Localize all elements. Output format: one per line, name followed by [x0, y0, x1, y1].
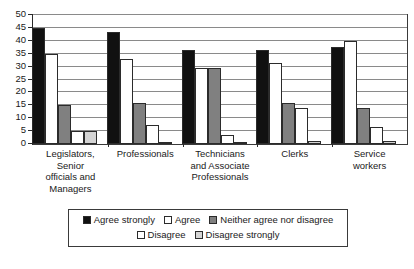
category-label-line: Managers	[33, 183, 108, 195]
category-label-line: Senior	[33, 160, 108, 172]
y-tick-label: 5	[21, 125, 26, 135]
y-tick-label: 15	[15, 100, 26, 110]
bar	[32, 28, 45, 144]
bar	[208, 68, 221, 144]
y-tick-label: 30	[15, 61, 26, 71]
bar-group	[256, 15, 321, 144]
y-tick-label: 35	[15, 48, 26, 58]
bar	[357, 108, 370, 144]
bar	[159, 142, 172, 144]
bar	[45, 54, 58, 144]
bar	[383, 141, 396, 144]
y-tick-label: 50	[15, 9, 26, 19]
category-label: Serviceworkers	[332, 148, 407, 171]
bar	[133, 103, 146, 144]
bar	[370, 127, 383, 144]
legend-item[interactable]: Agree	[164, 214, 200, 226]
legend-swatch-icon	[209, 216, 217, 224]
chart-legend: Agree stronglyAgreeNeither agree nor dis…	[68, 209, 348, 247]
category-label: Legislators,Seniorofficials andManagers	[33, 148, 108, 194]
legend-label: Disagree	[148, 229, 186, 241]
bar	[107, 32, 120, 144]
category-label-line: and Associate	[183, 160, 258, 172]
y-tick-label: 0	[21, 138, 26, 148]
category-label: Clerks	[257, 148, 332, 160]
bar	[84, 131, 97, 144]
bar	[256, 50, 269, 144]
legend-item[interactable]: Agree strongly	[83, 214, 155, 226]
bar	[269, 63, 282, 144]
legend-label: Neither agree nor disagree	[220, 214, 333, 226]
bar-group	[32, 15, 97, 144]
bar	[182, 50, 195, 144]
category-label-line: Clerks	[257, 148, 332, 160]
y-tick-label: 20	[15, 87, 26, 97]
bar	[120, 59, 133, 144]
category-label-line: Professionals	[108, 148, 183, 160]
bar	[234, 142, 247, 144]
bar	[308, 141, 321, 144]
legend-label: Agree strongly	[94, 214, 155, 226]
bar-group	[182, 15, 247, 144]
bar-group	[107, 15, 172, 144]
category-label-line: Legislators,	[33, 148, 108, 160]
y-tick-label: 10	[15, 112, 26, 122]
y-tick-label: 45	[15, 22, 26, 32]
category-label-line: officials and	[33, 171, 108, 183]
category-axis: Legislators,Seniorofficials andManagersP…	[33, 148, 407, 200]
bar	[331, 47, 344, 144]
plot-area	[33, 15, 407, 144]
bar	[221, 135, 234, 144]
bar-chart-figure: 05101520253035404550 Legislators,Senioro…	[0, 0, 414, 269]
legend-row: Agree stronglyAgreeNeither agree nor dis…	[75, 214, 341, 226]
legend-swatch-icon	[195, 231, 203, 239]
legend-item[interactable]: Disagree strongly	[195, 229, 280, 241]
bar	[146, 125, 159, 144]
legend-swatch-icon	[137, 231, 145, 239]
category-label: Techniciansand AssociateProfessionals	[183, 148, 258, 183]
legend-label: Disagree strongly	[206, 229, 280, 241]
category-label-line: Technicians	[183, 148, 258, 160]
bar	[295, 108, 308, 144]
y-tick-label: 25	[15, 74, 26, 84]
category-label-line: workers	[332, 160, 407, 172]
legend-swatch-icon	[164, 216, 172, 224]
bar	[71, 131, 84, 144]
category-label-line: Professionals	[183, 171, 258, 183]
bar	[282, 103, 295, 144]
y-axis: 05101520253035404550	[0, 14, 30, 145]
legend-row: DisagreeDisagree strongly	[75, 229, 341, 241]
category-label-line: Service	[332, 148, 407, 160]
y-tick-label: 40	[15, 35, 26, 45]
bar	[344, 41, 357, 144]
legend-item[interactable]: Disagree	[137, 229, 186, 241]
legend-swatch-icon	[83, 216, 91, 224]
legend-item[interactable]: Neither agree nor disagree	[209, 214, 333, 226]
bar	[195, 68, 208, 144]
bar	[58, 105, 71, 144]
legend-label: Agree	[175, 214, 200, 226]
bar-group	[331, 15, 396, 144]
category-label: Professionals	[108, 148, 183, 160]
